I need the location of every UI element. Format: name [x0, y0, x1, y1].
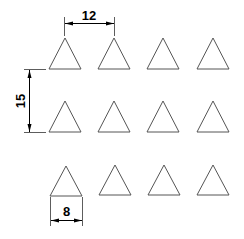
- dimension-vertical-spacing: 15: [13, 70, 46, 133]
- arrowhead-right-icon: [74, 219, 82, 223]
- triangle-r1-c4: [197, 38, 229, 69]
- triangle-r2-c4: [197, 101, 229, 132]
- dimension-label-12: 12: [82, 8, 96, 23]
- triangle-r3-c4: [197, 165, 229, 195]
- triangle-r2-c2: [98, 101, 130, 132]
- triangle-grid: [49, 38, 229, 196]
- arrowhead-up-icon: [28, 70, 32, 78]
- triangle-r2-c3: [147, 101, 179, 132]
- dimension-label-8: 8: [63, 204, 70, 219]
- triangle-r2-c1: [49, 101, 81, 132]
- triangle-r3-c3: [148, 165, 180, 195]
- triangle-r1-c3: [147, 38, 179, 69]
- triangle-r1-c2: [98, 38, 130, 69]
- arrowhead-right-icon: [106, 22, 114, 26]
- dimension-base-width: 8: [51, 197, 83, 226]
- dimension-horizontal-spacing: 12: [65, 8, 115, 36]
- triangle-r1-c1: [49, 38, 81, 69]
- arrowhead-left-icon: [51, 219, 59, 223]
- triangle-grid-diagram: 12 15 8: [0, 0, 244, 239]
- dimension-label-15: 15: [13, 94, 28, 108]
- triangle-r3-c2: [99, 165, 131, 195]
- arrowhead-left-icon: [65, 22, 73, 26]
- triangle-r3-c1: [50, 166, 82, 196]
- arrowhead-down-icon: [28, 124, 32, 132]
